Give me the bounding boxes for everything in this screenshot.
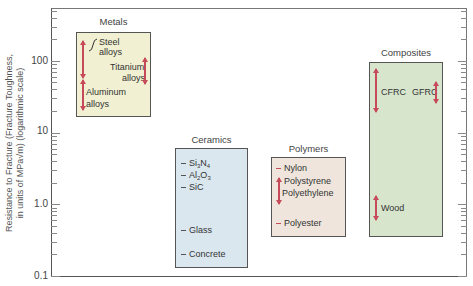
y-tick-mark [51, 170, 57, 171]
label-nylon: Nylon [276, 163, 307, 173]
y-tick-mark-right [461, 149, 467, 150]
y-tick-mark [51, 72, 57, 73]
y-tick-mark-right [461, 233, 467, 234]
y-tick-mark [51, 11, 57, 12]
range-arrow-aluminum [82, 80, 84, 110]
y-tick-mark [51, 226, 57, 227]
y-tick-mark-right [461, 39, 467, 40]
label-polystyrene: Polystyrene [284, 176, 331, 186]
range-arrow-polyethylene [278, 178, 280, 204]
label-titanium: Titanium [110, 62, 144, 72]
label-cfrc: CFRC [381, 87, 406, 97]
y-tick-mark-right [461, 77, 467, 78]
y-tick-mark-right [461, 27, 467, 28]
y-tick-mark [51, 27, 57, 28]
y-tick-mark-right [461, 82, 467, 83]
y-tick-mark [51, 18, 57, 19]
y-tick-mark-right [458, 61, 467, 62]
y-tick-mark-right [461, 144, 467, 145]
label-al2o3: Al2O3 [181, 170, 211, 180]
label-polyester: Polyester [276, 218, 322, 228]
y-tick-mark [51, 215, 57, 216]
label-gfrc: GFRC [412, 87, 438, 97]
y-tick-mark-right [461, 72, 467, 73]
y-tick-mark-right [461, 242, 467, 243]
y-tick-mark [51, 140, 57, 141]
y-tick-mark [51, 77, 57, 78]
y-axis-label-line2: in units of MPa√m) (logarithmic scale) [15, 33, 26, 253]
y-tick-mark-right [458, 204, 467, 205]
y-tick-mark-right [461, 111, 467, 112]
y-tick-mark [51, 82, 57, 83]
y-tick-mark [51, 220, 57, 221]
range-box-composites: CFRC GFRC Wood [369, 62, 443, 237]
label-si3n4: Si3N4 [181, 158, 210, 168]
y-tick-mark [51, 254, 57, 255]
y-tick-mark-right [461, 18, 467, 19]
y-tick-mark-right [461, 89, 467, 90]
label-sic: SiC [181, 182, 204, 192]
label-polyethylene: Polyethylene [282, 188, 334, 198]
y-tick-mark-right [461, 154, 467, 155]
label-wood: Wood [381, 203, 404, 213]
group-title-polymers: Polymers [271, 143, 346, 154]
y-tick-mark-right [461, 136, 467, 137]
label-steel: Steel [99, 37, 120, 47]
range-arrow-gfrc [435, 82, 437, 103]
label-aluminum-alloys: alloys [86, 99, 109, 109]
range-arrow-titanium [144, 58, 146, 84]
y-tick-mark [51, 89, 57, 90]
y-tick-mark [51, 144, 57, 145]
range-box-polymers: Nylon Polystyrene Polyethylene Polyester [271, 157, 346, 237]
y-tick-mark-right [461, 161, 467, 162]
y-tick-mark-right [461, 98, 467, 99]
label-concrete: Concrete [181, 249, 226, 259]
y-tick-mark-right [461, 220, 467, 221]
y-axis-label-line1: Resistance to Fracture (Fracture Toughne… [4, 33, 15, 253]
y-tick-mark-right [461, 208, 467, 209]
y-tick-mark-right [461, 211, 467, 212]
y-tick-mark-right [458, 133, 467, 134]
label-aluminum: Aluminum [86, 87, 126, 97]
y-tick-mark [51, 61, 60, 62]
y-tick-mark [51, 154, 57, 155]
y-axis-label: Resistance to Fracture (Fracture Toughne… [4, 33, 26, 253]
y-tick-mark-right [461, 68, 467, 69]
group-title-metals: Metals [76, 16, 151, 27]
y-tick-mark-right [461, 226, 467, 227]
y-tick-mark-right [458, 276, 467, 277]
y-tick-mark-right [461, 170, 467, 171]
y-tick-mark [51, 133, 60, 134]
range-box-ceramics: Si3N4 Al2O3 SiC Glass Concrete [175, 148, 248, 268]
bracket-icon [88, 38, 98, 52]
y-tick-mark [51, 204, 60, 205]
y-tick-mark-right [461, 11, 467, 12]
group-title-ceramics: Ceramics [175, 134, 248, 145]
range-arrow-wood [375, 196, 377, 220]
y-tick-mark [51, 208, 57, 209]
y-tick-mark [51, 183, 57, 184]
y-tick-10: 10 [18, 125, 48, 136]
y-tick-mark [51, 149, 57, 150]
y-tick-mark-right [461, 254, 467, 255]
y-tick-100: 100 [18, 55, 48, 66]
label-steel-alloys: alloys [99, 47, 122, 57]
y-tick-mark-right [461, 215, 467, 216]
y-tick-mark [51, 211, 57, 212]
y-tick-mark [51, 233, 57, 234]
y-tick-mark [51, 136, 57, 137]
y-tick-mark [51, 242, 57, 243]
range-box-metals: Steel alloys Titanium alloys Aluminum al… [76, 32, 151, 117]
y-tick-mark-right [461, 183, 467, 184]
y-tick-mark [51, 68, 57, 69]
y-tick-mark [51, 98, 57, 99]
y-tick-1: 1.0 [18, 198, 48, 209]
y-tick-0-1: 0.1 [18, 270, 48, 281]
range-arrow-cfrc [375, 69, 377, 112]
y-tick-mark [51, 39, 57, 40]
y-tick-mark-right [461, 140, 467, 141]
y-tick-mark-right [461, 64, 467, 65]
label-glass: Glass [181, 225, 212, 235]
range-arrow-steel [82, 41, 84, 78]
y-tick-mark [51, 276, 60, 277]
